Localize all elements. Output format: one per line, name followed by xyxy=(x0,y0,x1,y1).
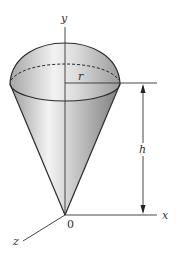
y-axis-label: y xyxy=(60,12,68,25)
x-axis-label: x xyxy=(162,209,169,222)
z-axis xyxy=(23,215,65,241)
origin-label: 0 xyxy=(67,218,74,231)
arrow-up-icon xyxy=(141,84,146,93)
cone-diagram: y r h x 0 z xyxy=(0,0,178,261)
arrow-down-icon xyxy=(141,205,146,214)
height-label: h xyxy=(139,143,146,156)
radius-label: r xyxy=(78,70,84,83)
z-axis-label: z xyxy=(12,235,19,248)
